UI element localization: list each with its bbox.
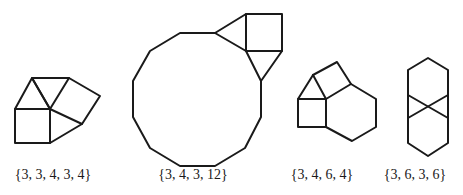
figure-3-4-3-12 — [133, 14, 282, 166]
figure-3-4-6-4 — [298, 62, 376, 141]
label-3-4-3-12: {3, 4, 3, 12} — [158, 167, 227, 183]
label-3-4-6-4: {3, 4, 6, 4} — [291, 167, 353, 183]
tile-edge — [246, 14, 282, 51]
tile-edge — [298, 99, 326, 127]
tile-edge — [313, 62, 351, 99]
tile-edge — [50, 78, 100, 124]
tiling-figures — [0, 0, 463, 195]
tile-edge — [15, 78, 50, 109]
figure-3-6-3-6 — [408, 58, 448, 156]
tile-edge — [133, 33, 261, 166]
tile-edge — [246, 51, 282, 81]
tile-edge — [326, 84, 376, 141]
tile-edge — [298, 75, 326, 99]
tile-edge — [15, 109, 50, 143]
figure-3-3-4-3-4 — [15, 78, 100, 143]
label-3-6-3-6: {3, 6, 3, 6} — [384, 167, 446, 183]
tile-edge — [215, 14, 246, 51]
tile-edge — [32, 78, 69, 109]
tile-edge — [50, 124, 82, 143]
label-3-3-4-3-4: {3, 3, 4, 3, 4} — [15, 167, 91, 183]
